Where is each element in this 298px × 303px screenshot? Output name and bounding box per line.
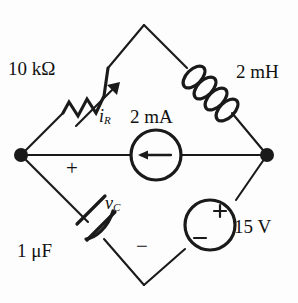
current-source-symbol: [131, 130, 181, 180]
branch-inductor-wire: [144, 25, 267, 155]
capacitor-voltage-subscript: C: [113, 201, 120, 213]
branch-resistor-wire: [21, 25, 144, 155]
resistor-value-label: 10 kΩ: [8, 59, 55, 78]
capacitor-minus-sign: −: [136, 236, 148, 257]
capacitor-voltage-label: vC: [105, 194, 120, 213]
capacitor-voltage-symbol: v: [105, 193, 113, 213]
inductor-symbol: [179, 62, 242, 125]
voltage-source-symbol: [185, 200, 235, 250]
resistor-current-subscript: R: [104, 114, 111, 126]
capacitor-value-label: 1 μF: [17, 241, 52, 260]
inductor-value-label: 2 mH: [236, 62, 279, 81]
capacitor-plus-sign: +: [66, 158, 78, 179]
current-source-arrowhead: [138, 151, 148, 160]
current-source-value-label: 2 mA: [130, 107, 173, 126]
node-dot-right: [260, 148, 274, 162]
resistor-current-label: iR: [99, 107, 111, 126]
voltage-source-value-label: 15 V: [234, 217, 271, 236]
circuit-diagram-figure: 10 kΩ 2 mH 2 mA 15 V 1 μF iR vC + −: [0, 0, 298, 303]
node-dot-left: [14, 148, 28, 162]
